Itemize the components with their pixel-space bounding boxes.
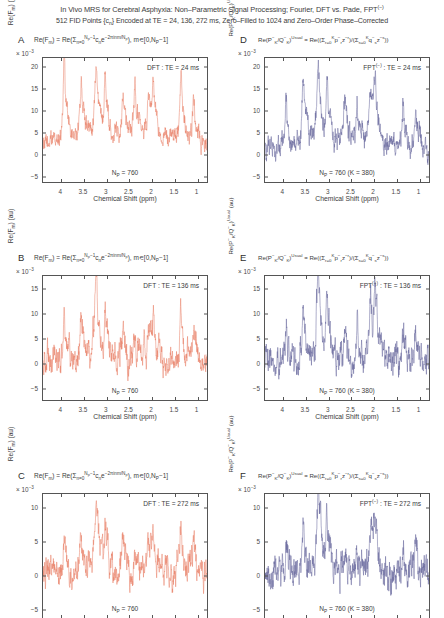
panel-c: CRe(Fm) = Re(Σn=0NP−1cne−2πinm/NP), m∊[0… — [0, 469, 222, 618]
x-tick-mark — [84, 179, 85, 182]
np-annotation-c: NP = 760 — [112, 605, 138, 612]
y-tick-label: 5 — [0, 335, 38, 342]
panel-letter-f: F — [240, 470, 246, 481]
x-tick-mark — [61, 58, 62, 61]
x-tick-label: 1 — [195, 188, 199, 195]
x-tick-label: 1.5 — [169, 406, 178, 413]
y-axis-exponent-e: × 10−3 — [238, 268, 256, 275]
x-tick-mark — [107, 397, 108, 400]
x-tick-mark — [198, 58, 199, 61]
x-tick-mark — [152, 179, 153, 182]
x-tick-mark — [61, 494, 62, 497]
x-tick-mark — [129, 397, 130, 400]
x-tick-mark — [61, 179, 62, 182]
y-tick-mark — [204, 155, 207, 156]
y-tick-mark — [204, 609, 207, 610]
x-tick-mark — [152, 58, 153, 61]
te-annotation-a: DFT : TE = 24 ms — [147, 64, 199, 71]
x-tick-mark — [129, 58, 130, 61]
panel-equation-c: Re(Fm) = Re(Σn=0NP−1cne−2πinm/NP), m∊[0,… — [34, 472, 168, 480]
x-tick-mark — [129, 494, 130, 497]
x-tick-mark — [84, 276, 85, 279]
panel-equation-f: Re(P−K/Q−K)Usual = Re((Σr=0Kp−rz−r)/(Σs=… — [258, 472, 389, 479]
y-axis-label-c: Re(Fm) (au) — [4, 381, 18, 507]
x-tick-mark — [61, 397, 62, 400]
spectrum-trace-e — [265, 276, 429, 379]
x-tick-mark — [152, 397, 153, 400]
x-tick-mark — [351, 276, 352, 279]
panel-letter-e: E — [240, 252, 246, 263]
y-tick-mark — [426, 507, 429, 508]
y-axis-exponent-a: × 10−3 — [16, 50, 34, 57]
y-tick-mark — [265, 609, 268, 610]
x-tick-label: 2 — [371, 188, 375, 195]
mrs-figure: In Vivo MRS for Cerebral Asphyxia: Non–P… — [0, 0, 444, 618]
y-tick-label: 10 — [222, 107, 260, 114]
y-tick-mark — [426, 66, 429, 67]
x-tick-label: 3.5 — [78, 188, 87, 195]
y-tick-mark — [43, 88, 46, 89]
spectrum-trace-d — [265, 60, 429, 165]
y-tick-label: 5 — [0, 129, 38, 136]
y-tick-mark — [204, 507, 207, 508]
x-tick-mark — [374, 276, 375, 279]
y-tick-label: 0 — [222, 151, 260, 158]
x-tick-label: 2.5 — [124, 188, 133, 195]
x-tick-mark — [374, 179, 375, 182]
y-tick-label: 15 — [222, 84, 260, 91]
y-tick-mark — [43, 66, 46, 67]
te-annotation-e: FPT(−) : TE = 136 ms — [360, 282, 421, 289]
x-tick-mark — [107, 58, 108, 61]
plot-area-a: DFT : TE = 24 msNP = 760 — [42, 57, 208, 183]
y-tick-mark — [265, 575, 268, 576]
y-tick-mark — [426, 541, 429, 542]
x-tick-mark — [306, 276, 307, 279]
y-tick-label: 10 — [0, 309, 38, 316]
x-tick-label: 2.5 — [346, 406, 355, 413]
spectrum-trace-c — [43, 501, 207, 594]
y-tick-mark — [43, 575, 46, 576]
x-tick-label: 1.5 — [391, 406, 400, 413]
panel-e: ERe(P−K/Q−K)Usual = Re((Σr=0Kp−rz−r)/(Σs… — [222, 251, 444, 447]
y-axis-label-f: Re(P−K/Q−K)Usual (au) — [224, 381, 238, 507]
y-tick-mark — [426, 155, 429, 156]
y-tick-mark — [265, 389, 268, 390]
y-tick-mark — [204, 313, 207, 314]
x-tick-mark — [329, 276, 330, 279]
x-tick-mark — [175, 276, 176, 279]
y-tick-mark — [426, 133, 429, 134]
x-tick-mark — [420, 179, 421, 182]
x-axis-label-a: Chemical Shift (ppm) — [42, 195, 208, 202]
y-tick-mark — [204, 364, 207, 365]
y-tick-mark — [43, 155, 46, 156]
y-tick-mark — [204, 541, 207, 542]
spectrum-trace-f — [265, 494, 429, 595]
y-tick-mark — [204, 575, 207, 576]
y-tick-mark — [43, 288, 46, 289]
spectrum-trace-a — [43, 58, 207, 155]
x-tick-label: 2 — [371, 406, 375, 413]
x-tick-mark — [329, 494, 330, 497]
x-tick-label: 1.5 — [391, 188, 400, 195]
panel-equation-d: Re(P−K/Q−K)Usual = Re((Σr=0Kp−rz−r)/(Σs=… — [258, 36, 389, 43]
y-tick-mark — [426, 609, 429, 610]
x-axis-label-b: Chemical Shift (ppm) — [42, 413, 208, 420]
x-tick-mark — [351, 179, 352, 182]
y-axis-exponent-d: × 10−3 — [238, 50, 256, 57]
x-tick-label: 2 — [149, 188, 153, 195]
y-tick-mark — [265, 339, 268, 340]
y-tick-mark — [43, 541, 46, 542]
x-tick-mark — [129, 276, 130, 279]
y-tick-label: 5 — [0, 537, 38, 544]
x-axis-label-d: Chemical Shift (ppm) — [264, 195, 430, 202]
x-tick-mark — [374, 494, 375, 497]
x-tick-mark — [107, 494, 108, 497]
np-annotation-e: NP = 760 (K = 380) — [319, 387, 375, 394]
y-tick-label: 0 — [222, 571, 260, 578]
panel-letter-d: D — [240, 34, 247, 45]
x-tick-label: 3 — [104, 406, 108, 413]
plot-area-c: DFT : TE = 272 msNP = 760 — [42, 493, 208, 618]
x-tick-mark — [329, 397, 330, 400]
y-tick-mark — [43, 177, 46, 178]
y-axis-label-b: Re(Fm) (au) — [4, 163, 18, 289]
